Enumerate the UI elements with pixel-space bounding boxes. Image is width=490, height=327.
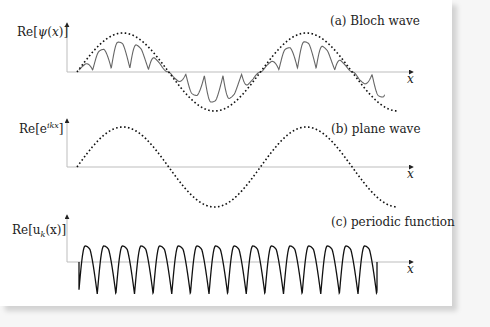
periodic-function-curve [79, 246, 377, 294]
caption-b: (b) plane wave [331, 122, 420, 136]
caption-c: (c) periodic function [331, 215, 455, 229]
x-label-a: x [407, 72, 414, 86]
caption-a: (a) Bloch wave [330, 14, 420, 28]
x-label-c: x [407, 262, 414, 276]
figure-svg: Re[ψ(x)] x (a) Bloch wave Re[eikx] x (b)… [0, 0, 490, 327]
y-label-c: Re[uk(x)] [12, 223, 66, 239]
panel-c: Re[uk(x)] x (c) periodic function [12, 215, 455, 294]
x-label-b: x [407, 167, 414, 181]
panel-b: Re[eikx] x (b) plane wave [19, 119, 420, 207]
y-label-a: Re[ψ(x)] [17, 25, 68, 39]
y-label-b: Re[eikx] [19, 121, 64, 136]
panel-a: Re[ψ(x)] x (a) Bloch wave [17, 14, 420, 111]
